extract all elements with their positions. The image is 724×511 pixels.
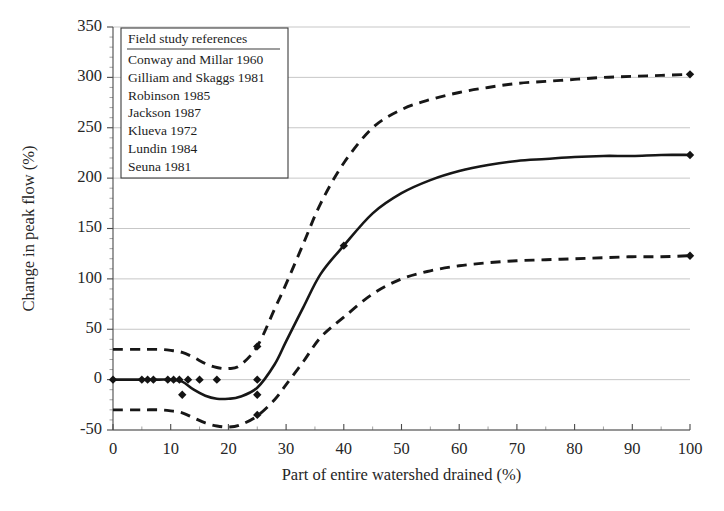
data-point-marker [195,375,203,383]
x-axis-tick-labels: 0102030405060708090100 [109,439,703,458]
y-tick-label-50: 50 [86,318,103,337]
y-tick-label-350: 350 [77,16,102,35]
x-tick-label-20: 20 [220,439,237,458]
x-tick-label-50: 50 [393,439,410,458]
data-point-marker [213,375,221,383]
y-axis-tick-labels: -50050100150200250300350 [77,16,102,438]
legend-title: Field study references [128,31,247,46]
data-point-marker [178,391,186,399]
x-tick-label-70: 70 [509,439,526,458]
y-tick-label-200: 200 [77,167,102,186]
y-tick-label-250: 250 [77,117,102,136]
y-tick-label-0: 0 [94,368,102,387]
series-mean-trend [113,155,690,399]
data-point-marker [686,151,694,159]
data-point-marker [686,252,694,260]
legend-entry-2: Robinson 1985 [128,88,210,103]
x-tick-label-40: 40 [336,439,353,458]
legend-box: Field study references Conway and Millar… [121,28,288,178]
data-point-marker [253,391,261,399]
x-tick-label-80: 80 [566,439,583,458]
x-tick-label-10: 10 [162,439,179,458]
legend-entry-1: Gilliam and Skaggs 1981 [128,70,265,85]
legend-entry-3: Jackson 1987 [128,105,201,120]
series-lower-envelope [113,256,690,427]
x-tick-label-90: 90 [624,439,641,458]
data-point-marker [253,375,261,383]
chart-figure: -50050100150200250300350 010203040506070… [0,0,724,511]
chart-canvas: -50050100150200250300350 010203040506070… [0,0,724,511]
x-tick-label-30: 30 [278,439,295,458]
y-tick-label--50: -50 [80,419,102,438]
x-tick-label-60: 60 [451,439,468,458]
y-axis-title: Change in peak flow (%) [19,146,38,312]
data-point-marker [149,375,157,383]
legend-entry-6: Seuna 1981 [128,159,191,174]
x-axis-title: Part of entire watershed drained (%) [282,465,522,484]
data-point-marker [109,375,117,383]
x-tick-label-100: 100 [678,439,703,458]
y-tick-label-300: 300 [77,66,102,85]
legend-entry-0: Conway and Millar 1960 [128,52,264,67]
y-tick-label-150: 150 [77,217,102,236]
x-tick-label-0: 0 [109,439,117,458]
legend-entry-5: Lundin 1984 [128,141,198,156]
y-tick-label-100: 100 [77,268,102,287]
legend-entry-4: Klueva 1972 [128,123,197,138]
